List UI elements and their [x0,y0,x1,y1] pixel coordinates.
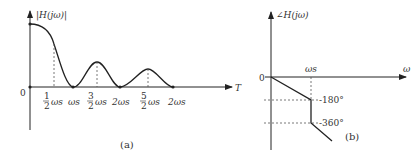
a-tick-4: 5 2 ωs [140,91,160,111]
a-tick-2: 3 2 ωs [87,91,107,111]
a-tick-1: ωs [68,97,80,107]
a-origin-label: 0 [20,88,26,98]
svg-text:2: 2 [141,101,147,111]
svg-text:2: 2 [88,101,94,111]
diagram-canvas: |H(jω)| T 0 1 2 ωs ωs 3 2 ωs 2ωs 5 2 ωs … [0,0,413,153]
svg-text:3: 3 [88,91,94,101]
a-caption: (a) [120,139,134,150]
b-x-label: ω [403,64,411,74]
panel-a: |H(jω)| T 0 1 2 ωs ωs 3 2 ωs 2ωs 5 2 ωs … [20,10,242,150]
a-y-label: |H(jω)| [36,10,67,21]
magnitude-curve [30,24,173,87]
b-y-tick-180: -180° [319,95,344,105]
svg-text:5: 5 [141,91,147,101]
b-y-label: ∠H(jω) [276,10,309,20]
panel-b: ∠H(jω) ω 0 ωs -180° -360° (b) [259,10,411,150]
a-tick-0: 1 2 ωs [43,91,63,111]
b-origin-label: 0 [259,73,265,83]
a-x-label: T [235,83,242,93]
a-tick-3: 2ωs [111,97,130,107]
a-tick-5: 2ωs [167,97,186,107]
phase-curve [271,77,332,141]
svg-text:ωs: ωs [51,97,63,107]
svg-text:1: 1 [44,91,50,101]
b-caption: (b) [345,131,359,142]
b-y-tick-360: -360° [319,118,344,128]
svg-text:ωs: ωs [148,97,160,107]
svg-text:ωs: ωs [95,97,107,107]
svg-text:2: 2 [44,101,50,111]
b-x-tick: ωs [305,64,317,74]
